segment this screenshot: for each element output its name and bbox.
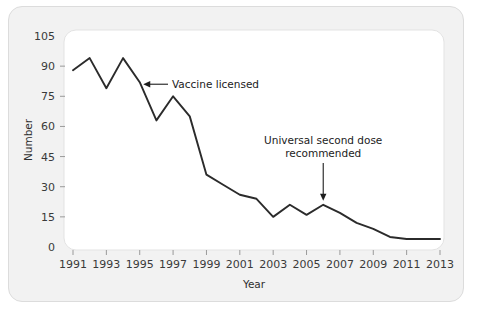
- chart-figure: 0153045607590105 19911993199519971999200…: [0, 0, 477, 316]
- line-chart-svg: 0153045607590105 19911993199519971999200…: [0, 0, 477, 316]
- annotation-label-vaccine-licensed: Vaccine licensed: [172, 78, 259, 90]
- y-tick-label: 90: [41, 60, 55, 73]
- x-tick-label: 2001: [226, 258, 254, 271]
- x-tick-label: 2011: [393, 258, 421, 271]
- x-axis-title: Year: [242, 278, 266, 290]
- y-tick-label: 105: [34, 30, 55, 43]
- x-tick-label: 2009: [359, 258, 387, 271]
- x-axis-ticks: [73, 250, 440, 255]
- y-tick-label: 15: [41, 211, 55, 224]
- x-tick-label: 2003: [259, 258, 287, 271]
- y-axis-title: Number: [22, 118, 34, 161]
- y-axis-tick-labels: 0153045607590105: [34, 30, 55, 254]
- y-tick-label: 30: [41, 181, 55, 194]
- x-axis-tick-labels: 1991199319951997199920012003200520072009…: [59, 258, 454, 271]
- x-tick-label: 1991: [59, 258, 87, 271]
- x-tick-label: 2013: [426, 258, 454, 271]
- x-tick-label: 1993: [92, 258, 120, 271]
- annotation-label-universal-line2: recommended: [285, 147, 361, 159]
- y-tick-label: 0: [48, 241, 55, 254]
- x-tick-label: 1997: [159, 258, 187, 271]
- x-tick-label: 1999: [192, 258, 220, 271]
- x-tick-label: 1995: [126, 258, 154, 271]
- y-tick-label: 45: [41, 151, 55, 164]
- y-tick-label: 75: [41, 90, 55, 103]
- x-tick-label: 2007: [326, 258, 354, 271]
- annotation-label-universal-line1: Universal second dose: [264, 134, 382, 146]
- y-tick-label: 60: [41, 120, 55, 133]
- x-tick-label: 2005: [293, 258, 321, 271]
